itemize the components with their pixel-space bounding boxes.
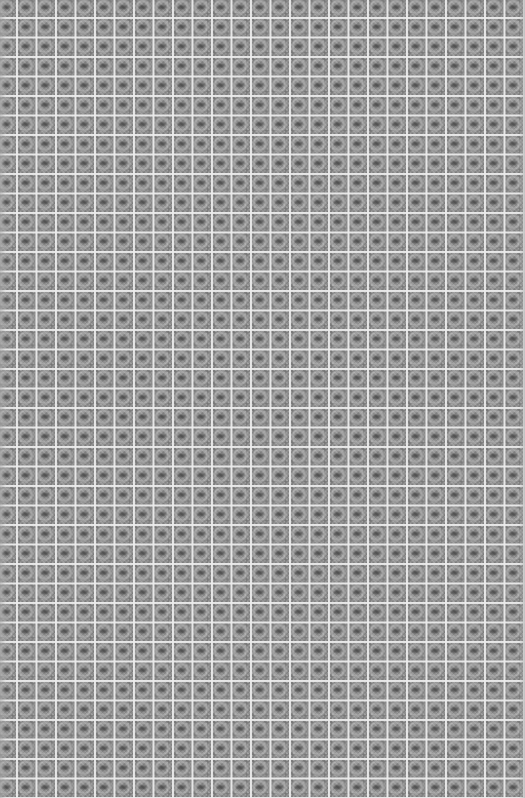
left-edge-fade [0,0,6,798]
tiled-texture-background [0,0,525,798]
right-edge-fade [519,0,525,798]
